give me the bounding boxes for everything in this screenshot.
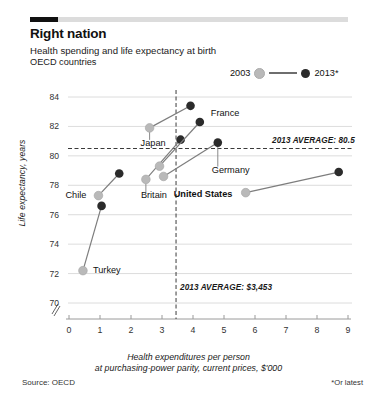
y-axis-title: Life expectancy, years [17,123,27,243]
x-tick-label: 8 [308,325,326,335]
country-label: Britain [141,190,167,200]
x-tick-label: 6 [246,325,264,335]
connector-line [150,106,191,128]
country-label: Japan [141,138,166,148]
x-axis-title-line2: at purchasing-power parity, current pric… [95,363,282,373]
country-label: Germany [212,165,250,175]
y-tick-label: 78 [41,180,59,190]
x-tick-label: 4 [184,325,202,335]
data-point-2003[interactable] [79,266,88,275]
data-point-2003[interactable] [94,191,103,200]
data-point-2003[interactable] [142,175,151,184]
y-tick-label: 76 [41,210,59,220]
y-tick-label: 72 [41,269,59,279]
x-tick-label: 5 [215,325,233,335]
data-point-2003[interactable] [159,172,168,181]
country-label: Turkey [93,265,121,275]
reference-label-spend-avg: 2013 AVERAGE: $3,453 [180,283,272,292]
data-point-2003[interactable] [155,162,164,171]
y-tick-label: 70 [41,298,59,308]
y-tick-label: 82 [41,121,59,131]
data-point-2003[interactable] [241,188,250,197]
data-point-2013[interactable] [97,202,106,211]
x-tick-label: 9 [339,325,357,335]
country-label: France [211,108,240,118]
reference-label-life-avg: 2013 AVERAGE: 80.5 [272,136,355,145]
chart-page: Right nation Health spending and life ex… [0,0,377,399]
x-tick-label: 2 [122,325,140,335]
data-point-2013[interactable] [115,169,124,178]
country-label: United States [174,189,233,199]
connector-line [246,172,339,193]
data-point-2013[interactable] [334,168,343,177]
source-note: Source: OECD [22,378,75,387]
x-axis-title: Health expenditures per person at purcha… [0,352,377,374]
x-axis-title-line1: Health expenditures per person [127,352,250,362]
plot-svg [0,0,377,399]
footnote: *Or latest [331,378,363,387]
connector-line [83,206,102,271]
data-point-2003[interactable] [145,124,154,133]
x-tick-label: 3 [153,325,171,335]
y-tick-label: 84 [41,92,59,102]
data-point-2013[interactable] [196,118,205,127]
x-tick-label: 1 [91,325,109,335]
connector-line [164,143,218,177]
y-tick-label: 80 [41,151,59,161]
y-tick-label: 74 [41,239,59,249]
country-label: Chile [65,190,86,200]
x-tick-label: 7 [277,325,295,335]
x-tick-label: 0 [60,325,78,335]
data-point-2013[interactable] [186,102,195,111]
scatter-plot: Life expectancy, years 70727476788082840… [0,0,377,399]
data-point-2013[interactable] [214,138,223,147]
